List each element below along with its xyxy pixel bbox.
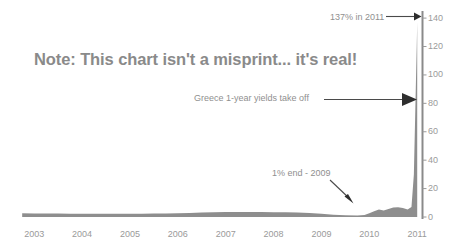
x-tick-label-2008: 2008 <box>264 229 284 240</box>
y-tick-label-80: 80 <box>428 99 438 108</box>
x-axis-tick-labels: 200320042005200620072008200920102011 <box>0 229 462 245</box>
x-tick-label-2007: 2007 <box>216 229 236 240</box>
y-tick-label-20: 20 <box>428 184 438 193</box>
x-tick-label-2005: 2005 <box>120 229 140 240</box>
y-tick-label-0: 0 <box>428 213 433 222</box>
x-tick-label-2010: 2010 <box>359 229 379 240</box>
annotation-takeoff-label: Greece 1-year yields take off <box>194 93 309 103</box>
y-tick-label-60: 60 <box>428 127 438 136</box>
annotation-end-2009-label: 1% end - 2009 <box>272 168 331 178</box>
annotation-end2009-arrow <box>330 180 354 204</box>
x-tick-label-2009: 2009 <box>311 229 331 240</box>
plot-area <box>0 0 462 252</box>
y-tick-label-100: 100 <box>428 70 443 79</box>
y-tick-label-120: 120 <box>428 42 443 51</box>
annotation-peak-label: 137% in 2011 <box>330 12 384 22</box>
area-chart-svg <box>0 0 462 252</box>
y-axis-tick-labels: 140120100806040200 <box>428 0 462 225</box>
annotation-peak-arrow <box>386 13 422 21</box>
x-tick-label-2004: 2004 <box>72 229 92 240</box>
chart-title: Note: This chart isn't a misprint... it'… <box>34 50 374 69</box>
x-tick-label-2003: 2003 <box>24 229 44 240</box>
chart-screenshot: Note: This chart isn't a misprint... it'… <box>0 0 462 252</box>
y-tick-label-40: 40 <box>428 156 438 165</box>
x-tick-label-2011: 2011 <box>408 229 427 240</box>
y-tick-label-140: 140 <box>428 14 443 23</box>
x-tick-label-2006: 2006 <box>168 229 188 240</box>
annotation-takeoff-arrow <box>324 93 417 106</box>
